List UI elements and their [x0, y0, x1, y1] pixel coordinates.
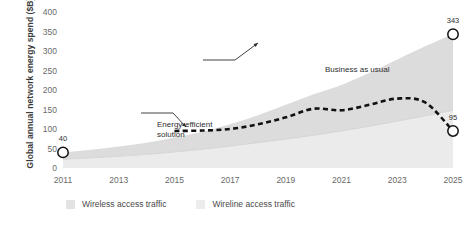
- y-tick-label: 350: [43, 27, 57, 37]
- legend-label: Wireless access traffic: [82, 199, 166, 209]
- annotation-leader-line: [203, 43, 258, 60]
- y-tick-label: 250: [43, 66, 57, 76]
- legend-swatch: [196, 200, 205, 209]
- x-tick-label: 2023: [388, 175, 407, 185]
- chart-canvas: [63, 12, 453, 168]
- x-tick-label: 2025: [444, 175, 463, 185]
- chart-page: Global annual network energy spend ($B) …: [0, 0, 467, 231]
- y-tick-label: 0: [52, 163, 57, 173]
- x-tick-label: 2015: [165, 175, 184, 185]
- legend-item[interactable]: Wireless access traffic: [66, 199, 166, 209]
- start-marker-label: 40: [59, 134, 67, 143]
- chart-legend: Wireless access trafficWireline access t…: [66, 199, 295, 209]
- x-tick-label: 2017: [221, 175, 240, 185]
- y-tick-label: 150: [43, 105, 57, 115]
- business-as-usual-end-marker: [448, 29, 458, 39]
- legend-label: Wireline access traffic: [212, 199, 295, 209]
- plot-area: 050100150200250300350400 201120132015201…: [63, 12, 453, 168]
- legend-swatch: [66, 200, 75, 209]
- annotation-energy-efficient-solution: Energy-efficient solution: [157, 120, 212, 140]
- start-marker: [58, 147, 68, 157]
- y-tick-label: 100: [43, 124, 57, 134]
- business-as-usual-end-marker-label: 343: [447, 16, 460, 25]
- legend-item[interactable]: Wireline access traffic: [196, 199, 295, 209]
- y-tick-label: 200: [43, 85, 57, 95]
- y-tick-label: 400: [43, 7, 57, 17]
- x-tick-label: 2013: [109, 175, 128, 185]
- y-tick-label: 300: [43, 46, 57, 56]
- x-tick-label: 2021: [332, 175, 351, 185]
- y-tick-label: 50: [48, 144, 57, 154]
- x-tick-label: 2011: [54, 175, 72, 185]
- energy-efficient-end-marker-label: 95: [449, 113, 457, 122]
- y-axis-title: Global annual network energy spend ($B): [25, 0, 35, 173]
- energy-efficient-end-marker: [448, 126, 458, 136]
- x-tick-label: 2019: [276, 175, 295, 185]
- annotation-business-as-usual: Business as usual: [325, 65, 389, 75]
- annotation-arrowhead: [254, 43, 258, 47]
